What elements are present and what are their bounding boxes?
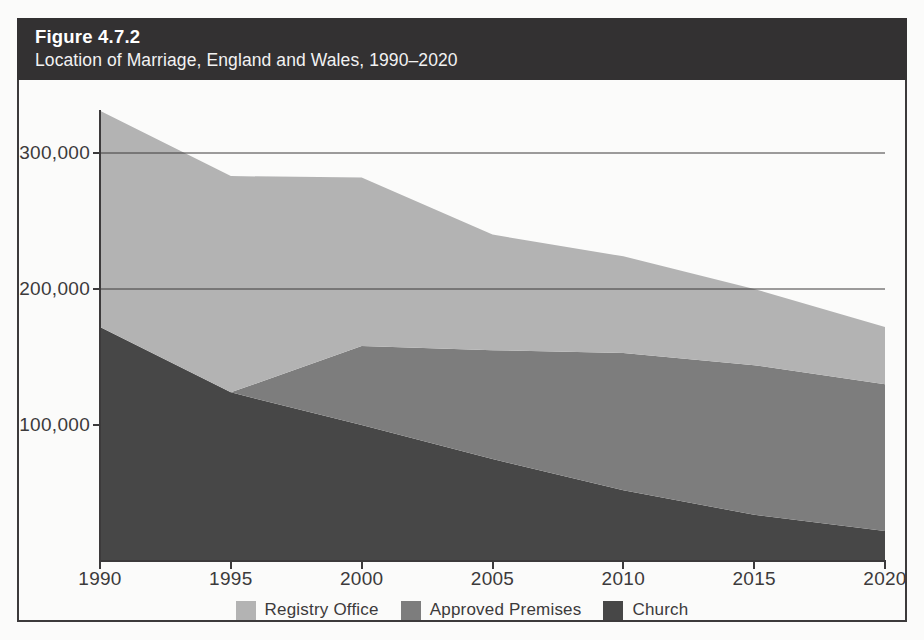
plot-area xyxy=(100,100,885,561)
y-tick-mark xyxy=(93,288,101,290)
x-tick-1990: 1990 xyxy=(60,568,140,590)
x-tick-2015: 2015 xyxy=(714,568,794,590)
y-tick-mark xyxy=(93,152,101,154)
x-tick-mark xyxy=(230,561,232,569)
y-tick-300000: 300,000 xyxy=(0,142,90,164)
legend-swatch-approved-premises xyxy=(401,601,421,620)
x-tick-1995: 1995 xyxy=(191,568,271,590)
stacked-area-chart xyxy=(100,100,885,561)
x-tick-2020: 2020 xyxy=(845,568,924,590)
x-tick-2000: 2000 xyxy=(322,568,402,590)
x-tick-label: 1995 xyxy=(209,568,252,589)
figure-number: Figure 4.7.2 xyxy=(35,25,907,48)
y-tick-label: 300,000 xyxy=(19,142,90,164)
legend-item-approved-premises[interactable]: Approved Premises xyxy=(401,600,582,620)
figure-container: Figure 4.7.2 Location of Marriage, Engla… xyxy=(0,0,924,640)
y-tick-100000: 100,000 xyxy=(0,414,90,436)
y-axis-line xyxy=(99,110,101,562)
x-tick-mark xyxy=(622,561,624,569)
y-tick-mark xyxy=(93,424,101,426)
legend-item-registry-office[interactable]: Registry Office xyxy=(236,600,379,620)
x-tick-mark xyxy=(884,561,886,569)
x-tick-mark xyxy=(99,561,101,569)
x-tick-label: 2015 xyxy=(732,568,775,589)
legend-label: Church xyxy=(632,600,688,620)
y-tick-200000: 200,000 xyxy=(0,278,90,300)
series-layer xyxy=(100,111,885,561)
x-tick-label: 2000 xyxy=(340,568,383,589)
x-tick-2010: 2010 xyxy=(583,568,663,590)
x-tick-label: 2010 xyxy=(602,568,645,589)
figure-subtitle: Location of Marriage, England and Wales,… xyxy=(35,48,907,73)
x-tick-label: 1990 xyxy=(78,568,121,589)
legend-swatch-church xyxy=(603,601,623,620)
legend-item-church[interactable]: Church xyxy=(603,600,688,620)
x-tick-mark xyxy=(492,561,494,569)
x-tick-mark xyxy=(361,561,363,569)
y-tick-label: 200,000 xyxy=(19,278,90,300)
legend-label: Approved Premises xyxy=(430,600,582,620)
x-tick-label: 2005 xyxy=(471,568,514,589)
figure-header-banner: Figure 4.7.2 Location of Marriage, Engla… xyxy=(17,18,907,80)
y-tick-label: 100,000 xyxy=(19,414,90,436)
chart-legend: Registry OfficeApproved PremisesChurch xyxy=(0,600,924,620)
x-tick-2005: 2005 xyxy=(453,568,533,590)
legend-swatch-registry-office xyxy=(236,601,256,620)
legend-label: Registry Office xyxy=(265,600,379,620)
x-tick-mark xyxy=(753,561,755,569)
x-tick-label: 2020 xyxy=(863,568,906,589)
